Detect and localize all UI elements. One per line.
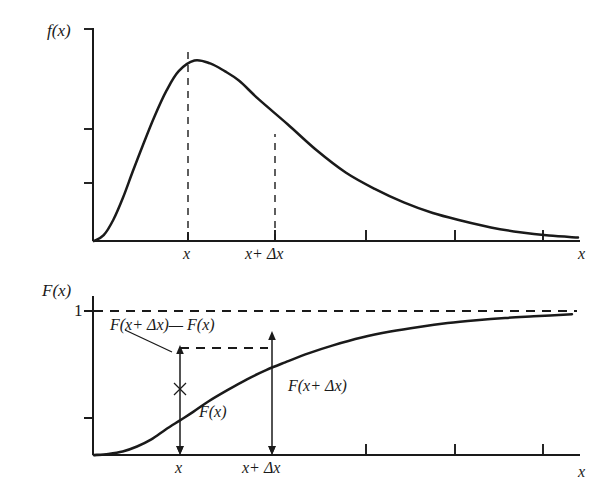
pdf-plot-group (84, 20, 584, 244)
cdf-x-tick-label-x-plus-dx: x+ Δx (242, 460, 280, 476)
cdf-annotation-difference: F(x+ Δx)— F(x) (110, 317, 215, 333)
cdf-y-tick-label-one: 1 (74, 302, 83, 319)
cdf-y-axis-label: F(x) (42, 282, 71, 299)
cdf-plot-group (84, 290, 584, 455)
cdf-annotation-fx: F(x) (199, 404, 227, 420)
pdf-x-tick-label-x-plus-dx: x+ Δx (245, 246, 283, 262)
statistics-figure: f(x) x x+ Δx x F(x) 1 F(x+ Δx)— F(x) F(x… (0, 0, 608, 501)
cdf-x-tick-label-x: x (175, 460, 182, 476)
cdf-annotation-fx-plus-dx: F(x+ Δx) (288, 378, 347, 394)
figure-canvas (0, 0, 608, 501)
pdf-x-axis-label: x (578, 246, 585, 262)
cdf-x-axis-label: x (578, 464, 585, 480)
pdf-x-tick-label-x: x (183, 246, 190, 262)
pdf-y-axis-label: f(x) (47, 22, 71, 39)
